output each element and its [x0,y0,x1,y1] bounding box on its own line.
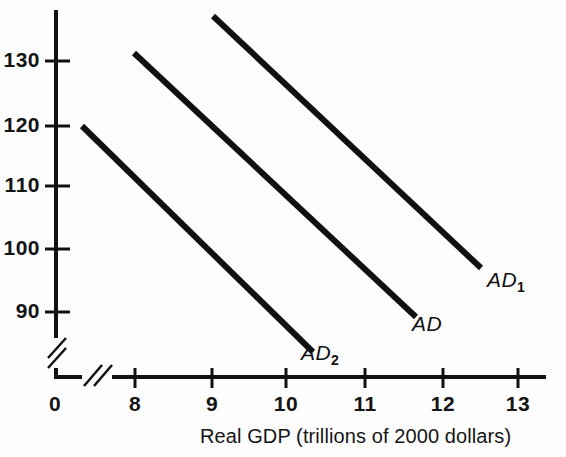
aggregate-demand-chart: 130 120 110 100 90 0 8 9 10 11 12 13 AD1… [0,0,566,457]
x-axis-break-mark [82,365,112,386]
curve-label-ad-text: AD [412,312,442,335]
y-tick-label-120: 120 [0,113,40,137]
y-tick-label-100: 100 [0,236,40,260]
x-tick-label-8: 8 [115,392,155,416]
curve-label-ad2-text: AD [301,341,331,364]
curve-label-ad: AD [412,312,442,336]
y-tick-label-110: 110 [0,173,40,197]
x-tick-label-10: 10 [266,392,306,416]
curve-ad2 [82,126,313,352]
curve-label-ad2-subscript: 2 [331,352,339,368]
x-tick-label-12: 12 [423,392,463,416]
curve-label-ad1: AD1 [487,268,525,295]
x-tick-label-13: 13 [498,392,538,416]
y-tick-label-130: 130 [0,48,40,72]
curve-label-ad2: AD2 [301,341,339,368]
curve-label-ad1-subscript: 1 [517,279,525,295]
x-tick-label-11: 11 [345,392,385,416]
y-axis-break-mark [48,338,66,368]
curve-ad1 [213,16,481,268]
x-axis-title: Real GDP (trillions of 2000 dollars) [200,425,511,448]
origin-label: 0 [40,392,70,416]
curve-ad [134,53,416,317]
curve-label-ad1-text: AD [487,268,517,291]
x-tick-label-9: 9 [192,392,232,416]
y-tick-label-90: 90 [0,299,40,323]
chart-plot-area [0,0,566,457]
